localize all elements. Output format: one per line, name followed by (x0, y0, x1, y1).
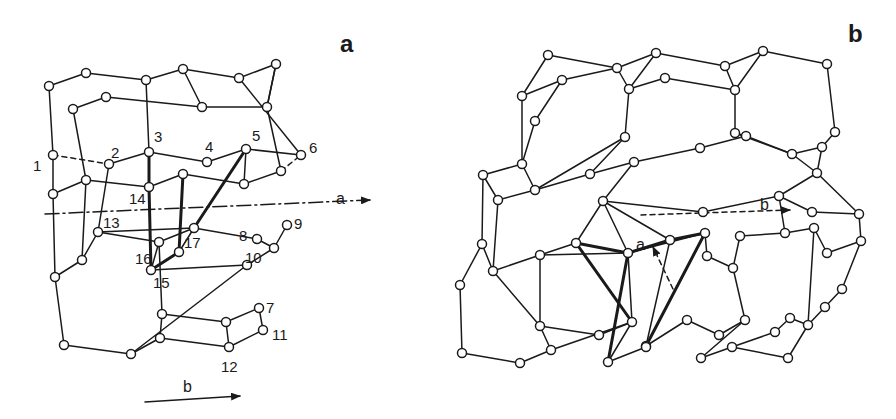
atom-node (736, 232, 745, 241)
atom-number-label: 14 (129, 190, 146, 207)
atom-node (222, 318, 231, 327)
atom-node (715, 331, 724, 340)
atom-node (661, 74, 670, 83)
bond-line (462, 353, 520, 363)
bond-line (625, 89, 629, 137)
atom-node (198, 103, 207, 112)
atom-node (742, 132, 751, 141)
atom-number-label: 5 (252, 127, 260, 144)
atom-node (175, 248, 184, 257)
atom-node (628, 318, 637, 327)
bond-line (732, 332, 775, 347)
atom-node (158, 310, 167, 319)
atom-node (781, 229, 790, 238)
atom-number-label: 16 (135, 250, 152, 267)
atom-number-label: 17 (184, 234, 201, 251)
bond-line (160, 338, 229, 347)
atom-node (823, 249, 832, 258)
atom-node (630, 158, 639, 167)
bond-line (493, 271, 540, 326)
bond-line (788, 325, 808, 358)
atom-node (297, 151, 306, 160)
bond-line (740, 233, 785, 236)
crystal-structure-figure: ab1234567891011121314151617a abb (0, 0, 896, 419)
bond-line (226, 308, 259, 322)
atom-node (775, 192, 784, 201)
bond-line (656, 53, 725, 66)
atom-node (518, 160, 527, 169)
bond-line (64, 345, 131, 354)
bond-line (55, 277, 64, 345)
atom-node (728, 343, 737, 352)
atom-node (642, 343, 651, 352)
atom-node (156, 334, 165, 343)
atom-node (458, 349, 467, 358)
atom-node (283, 221, 292, 230)
atom-node (516, 359, 525, 368)
atom-node (666, 236, 675, 245)
bond-line (86, 180, 149, 187)
bond-line (267, 64, 276, 107)
atom-node (731, 86, 740, 95)
atom-node (857, 237, 866, 246)
bond-line (146, 80, 149, 152)
bond-line (460, 244, 482, 285)
bond-line (733, 268, 745, 320)
bond-line (562, 68, 617, 80)
atom-node (810, 224, 819, 233)
bond-line (603, 162, 634, 201)
atom-node (855, 210, 864, 219)
bond-line (700, 136, 746, 148)
atom-node (771, 328, 780, 337)
bond-line (540, 243, 576, 255)
atom-number-label: 11 (272, 326, 288, 343)
atom-node (102, 93, 111, 102)
atom-node (808, 208, 817, 217)
atom-node (831, 128, 840, 137)
bond-line (827, 64, 835, 132)
atom-node (788, 150, 797, 159)
atom-node (456, 281, 465, 290)
bond-line (183, 174, 244, 184)
bond-line (149, 174, 183, 187)
atom-node (479, 171, 488, 180)
atom-node (683, 316, 692, 325)
atom-node (786, 314, 795, 323)
atom-node (78, 256, 87, 265)
bond-line (229, 330, 263, 347)
axis-a-arrow-icon (45, 200, 370, 214)
bond-line (82, 180, 86, 260)
highlighted-bond-line (670, 233, 705, 240)
bond-line (576, 201, 603, 243)
axis-b-arrow-icon (145, 396, 240, 402)
bond-line (149, 152, 207, 162)
atom-node (49, 151, 58, 160)
bond-line (634, 148, 700, 162)
atom-node (235, 74, 244, 83)
panel-label-a: a (340, 30, 354, 57)
bond-line (267, 107, 281, 171)
atom-node (558, 76, 567, 85)
bond-line (49, 86, 53, 155)
atom-node (489, 267, 498, 276)
bond-line (551, 322, 632, 350)
atom-node (821, 303, 830, 312)
atom-number-label: 8 (239, 227, 247, 244)
atom-node (838, 285, 847, 294)
bond-line (629, 78, 665, 89)
bond-line (162, 314, 226, 322)
atom-node (518, 92, 527, 101)
atom-node (179, 65, 188, 74)
atom-number-label: 1 (33, 157, 41, 174)
bond-line (779, 196, 785, 233)
highlighted-bond-line (179, 174, 183, 252)
atom-node (595, 331, 604, 340)
bond-line (687, 320, 719, 335)
atom-node (263, 103, 272, 112)
atom-node (823, 60, 832, 69)
atom-node (652, 49, 661, 58)
bond-line (73, 109, 86, 180)
atom-node (242, 145, 251, 154)
atom-node (729, 264, 738, 273)
bond-line (151, 265, 247, 270)
